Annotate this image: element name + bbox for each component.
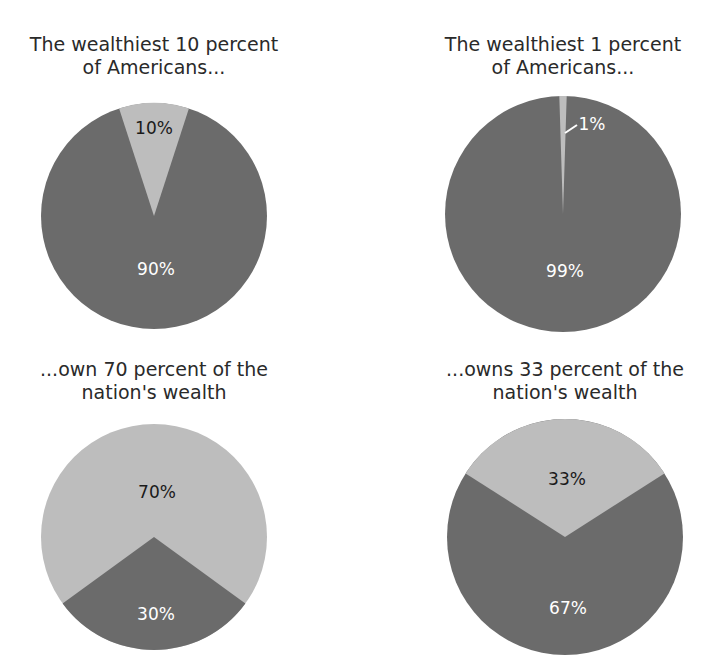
slice-label-90: 90% (137, 259, 175, 279)
slice-label-30: 30% (137, 604, 175, 624)
pie-charts-canvas: 10% 90% 1% 99% 70% 30% 33% 67% (0, 0, 711, 672)
slice-label-33: 33% (548, 469, 586, 489)
slice-label-10: 10% (135, 118, 173, 138)
slice-label-70: 70% (138, 482, 176, 502)
pie-chart-wealth70: 70% 30% (41, 424, 267, 650)
pie-chart-top10: 10% 90% (41, 103, 267, 329)
slice-label-99: 99% (546, 261, 584, 281)
pie-chart-wealth33: 33% 67% (447, 419, 683, 655)
slice-label-67: 67% (549, 598, 587, 618)
slice-label-1: 1% (579, 114, 606, 134)
pie-chart-top1: 1% 99% (445, 96, 681, 332)
